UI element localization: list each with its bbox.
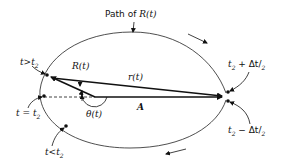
direction-arrow-top [188,34,207,43]
path-ellipse [40,32,226,148]
label-t-plus: t2 + Δt/2 [228,60,265,71]
path-label: Path of R(t) [105,10,157,19]
t-plus-pointer [230,72,249,91]
path-label-pointer [133,22,134,32]
orbit-diagram [0,0,289,165]
label-theta: θ(t) [86,110,102,119]
label-R: R(t) [72,62,89,71]
point-t-greater [45,73,49,77]
point-t-less [64,124,68,128]
label-r: r(t) [128,73,143,82]
label-t-equal: t = t2 [16,109,40,120]
t-less-pointer [52,128,64,146]
label-t-minus: t2 − Δt/2 [228,126,265,137]
label-A: A [137,103,144,112]
t-equal-pointer [28,97,42,108]
label-t-greater: t>t2 [20,58,39,69]
point-t-plus [226,90,230,94]
label-t-less: t<t2 [45,148,64,159]
direction-arrow-bottom [166,149,186,154]
t-minus-pointer [230,102,250,124]
point-t-equal [42,94,46,98]
point-t-minus [226,99,230,103]
